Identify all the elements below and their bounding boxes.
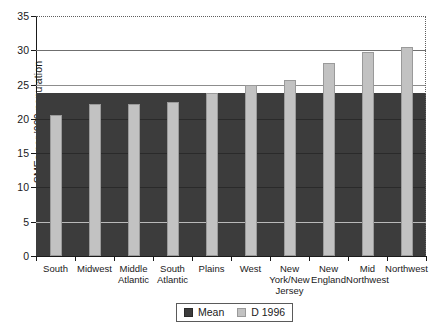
d1996-swatch	[237, 308, 246, 317]
legend-label-mean: Mean	[198, 306, 224, 318]
bar-5	[206, 93, 218, 256]
y-tick-15	[31, 153, 36, 154]
chart-container: SMEs per '000 population 05101520253035 …	[0, 0, 439, 328]
x-tick-4	[192, 256, 193, 261]
x-axis-labels: SouthMidwestMiddle AtlanticSouth Atlanti…	[36, 263, 427, 307]
bar-1	[50, 115, 62, 256]
x-tick-7	[309, 256, 310, 261]
mean-swatch	[184, 308, 193, 317]
gridline-35	[36, 16, 426, 17]
bar-10	[401, 47, 413, 256]
y-tick-35	[31, 16, 36, 17]
y-tick-label-5: 5	[23, 216, 29, 227]
legend-item-mean: Mean	[184, 306, 224, 318]
legend-item-d1996: D 1996	[237, 306, 285, 318]
x-tick-3	[153, 256, 154, 261]
bar-4	[167, 102, 179, 256]
x-tick-2	[114, 256, 115, 261]
bar-2	[89, 104, 101, 256]
x-tick-10	[426, 256, 427, 261]
y-tick-20	[31, 119, 36, 120]
bar-9	[362, 52, 374, 256]
y-tick-label-20: 20	[17, 114, 29, 125]
x-axis-label-10: Northwest	[375, 263, 439, 274]
bar-7	[284, 80, 296, 256]
x-tick-1	[75, 256, 76, 261]
bar-6	[245, 85, 257, 256]
y-tick-label-35: 35	[17, 11, 29, 22]
y-tick-label-25: 25	[17, 79, 29, 90]
y-tick-5	[31, 222, 36, 223]
x-tick-8	[348, 256, 349, 261]
bar-3	[128, 104, 140, 256]
y-tick-10	[31, 187, 36, 188]
gridline-30	[36, 50, 426, 51]
x-tick-5	[231, 256, 232, 261]
x-tick-6	[270, 256, 271, 261]
y-tick-label-0: 0	[23, 251, 29, 262]
y-tick-label-30: 30	[17, 45, 29, 56]
chart-legend: Mean D 1996	[176, 303, 293, 322]
y-tick-30	[31, 50, 36, 51]
y-tick-label-15: 15	[17, 148, 29, 159]
right-edge-dotted-line	[425, 16, 426, 256]
x-tick-0	[36, 256, 37, 261]
bar-8	[323, 63, 335, 256]
y-tick-25	[31, 85, 36, 86]
legend-label-d1996: D 1996	[251, 306, 285, 318]
y-tick-label-10: 10	[17, 182, 29, 193]
plot-area: 05101520253035	[36, 16, 426, 256]
plot-inner	[36, 16, 426, 256]
x-tick-9	[387, 256, 388, 261]
